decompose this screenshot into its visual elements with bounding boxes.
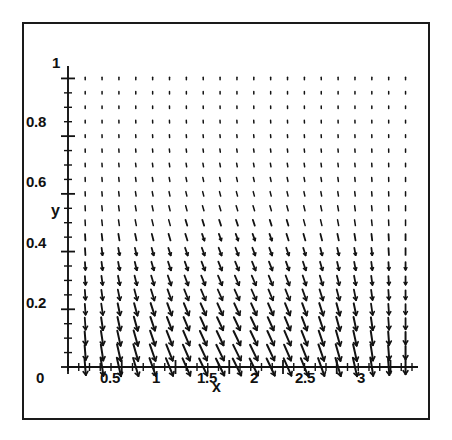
figure-root: 0 0.5 1 1.5 2 2.5 3 0.2 0.4 0.6 0.8 1 x … xyxy=(0,0,452,440)
xtick-label-3: 3 xyxy=(357,369,365,386)
ytick-label-1: 1 xyxy=(52,54,60,71)
x-axis-label: x xyxy=(212,378,221,396)
xtick-label-1: 1 xyxy=(152,369,160,386)
xtick-label-0-5: 0.5 xyxy=(100,369,120,386)
xtick-label-2: 2 xyxy=(250,369,258,386)
vector-field-plot xyxy=(0,0,452,440)
xtick-label-0: 0 xyxy=(36,369,44,386)
ytick-label-0-4: 0.4 xyxy=(26,234,46,251)
ytick-label-0-8: 0.8 xyxy=(26,113,46,130)
xtick-label-2-5: 2.5 xyxy=(295,369,315,386)
y-axis-label: y xyxy=(51,202,60,220)
ytick-label-0-2: 0.2 xyxy=(26,294,46,311)
ytick-label-0-6: 0.6 xyxy=(26,173,46,190)
